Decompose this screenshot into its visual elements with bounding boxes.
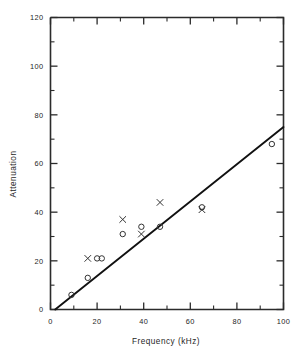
y-tick-label: 120	[30, 13, 44, 22]
x-tick-label: 20	[93, 317, 102, 326]
y-tick-label: 60	[34, 159, 43, 168]
x-tick-label: 100	[277, 317, 291, 326]
x-tick-label: 40	[139, 317, 148, 326]
chart-background	[0, 0, 303, 353]
y-axis-title: Attenuation	[9, 151, 18, 198]
chart-figure: 020406080100 020406080100120 Frequency (…	[0, 0, 303, 353]
x-tick-label: 0	[48, 317, 53, 326]
y-tick-label: 40	[34, 208, 43, 217]
y-tick-label: 100	[30, 62, 44, 71]
scatter-plot-svg: 020406080100 020406080100120 Frequency (…	[0, 0, 303, 353]
y-tick-label: 20	[34, 257, 43, 266]
y-tick-label: 80	[34, 111, 43, 120]
x-axis-title: Frequency (kHz)	[132, 337, 200, 346]
x-tick-label: 60	[186, 317, 195, 326]
x-tick-label: 80	[232, 317, 241, 326]
y-tick-label: 0	[39, 305, 44, 314]
